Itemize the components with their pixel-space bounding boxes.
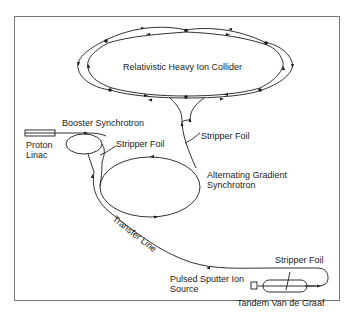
rhic-intersection bbox=[264, 41, 268, 45]
rhic-intersection bbox=[104, 39, 108, 43]
stripper-foil-tandem-label: Stripper Foil bbox=[275, 255, 324, 265]
booster-synchrotron bbox=[66, 134, 102, 154]
stripper-foil-rhic-leader bbox=[185, 133, 200, 143]
rhic-injection-line-right bbox=[190, 98, 204, 120]
alternating-gradient-synchrotron bbox=[100, 157, 200, 217]
rhic-intersection bbox=[258, 88, 262, 92]
booster-label: Booster Synchrotron bbox=[62, 118, 144, 128]
arrow-icon bbox=[148, 99, 152, 102]
ags-label: Alternating Gradient bbox=[207, 170, 288, 180]
ion-source-label: Pulsed Sputter Ion bbox=[170, 274, 244, 284]
transfer-line-label: Transfer Line bbox=[111, 214, 159, 254]
stripper-foil-tandem-leader bbox=[286, 272, 290, 290]
rhic-intersection bbox=[184, 95, 188, 99]
pulsed-sputter-ion-source bbox=[251, 282, 257, 289]
proton-linac-label: Proton bbox=[26, 140, 53, 150]
rhic-injection-line-left bbox=[170, 98, 196, 168]
arrow-icon bbox=[317, 285, 321, 288]
arrow-icon bbox=[220, 98, 224, 101]
arrow-icon bbox=[206, 267, 210, 270]
stripper-foil-booster-leader bbox=[100, 146, 116, 155]
tandem-label: Tandem Van de Graaf bbox=[237, 298, 325, 308]
stripper-foil-rhic-label: Stripper Foil bbox=[201, 131, 250, 141]
rhic-label: Relativistic Heavy Ion Collider bbox=[123, 62, 242, 72]
rhic-ring: Relativistic Heavy Ion Collider bbox=[77, 27, 294, 102]
rhic-intersection bbox=[108, 88, 112, 92]
arrow-icon bbox=[150, 155, 154, 158]
stripper-foil-booster-label: Stripper Foil bbox=[116, 139, 165, 149]
arrow-icon bbox=[154, 216, 158, 219]
rhic-intersection bbox=[184, 29, 188, 33]
proton-linac-label: Linac bbox=[26, 150, 48, 160]
arrow-icon bbox=[224, 93, 228, 96]
arrow-icon bbox=[181, 122, 184, 126]
ags-label: Synchrotron bbox=[207, 180, 256, 190]
accelerator-diagram: Relativistic Heavy Ion Collider Stripper… bbox=[0, 0, 351, 325]
ion-source-label: Source bbox=[170, 284, 199, 294]
arrow-icon bbox=[291, 64, 294, 68]
